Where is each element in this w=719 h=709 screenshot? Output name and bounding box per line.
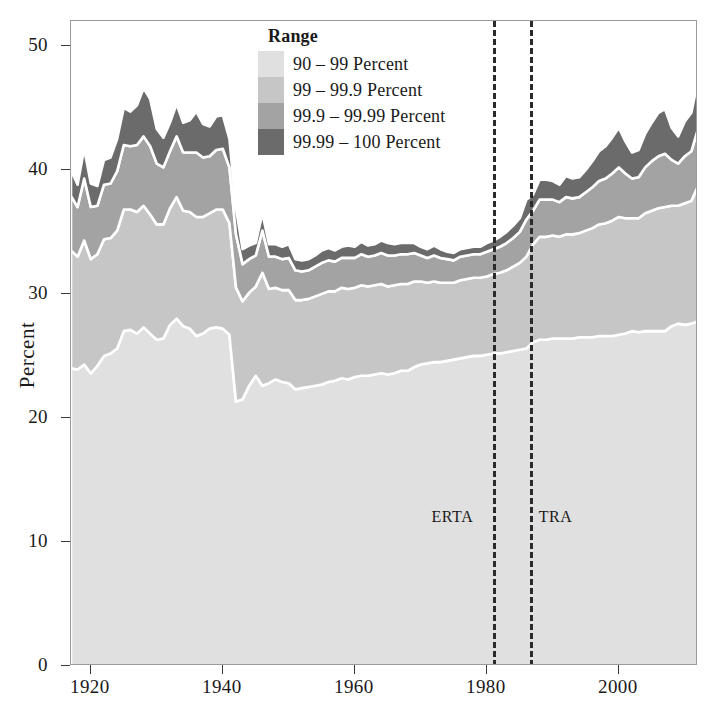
legend-label: 99.9 – 99.99 Percent	[293, 106, 445, 127]
y-tick-label: 30	[8, 282, 48, 304]
legend-title: Range	[268, 26, 468, 47]
x-tick-mark	[354, 665, 355, 674]
y-tick-label: 40	[8, 158, 48, 180]
legend-item[interactable]: 99 – 99.9 Percent	[258, 77, 468, 103]
legend-label: 90 – 99 Percent	[293, 54, 408, 75]
legend-item[interactable]: 99.99 – 100 Percent	[258, 129, 468, 155]
legend-entries: 90 – 99 Percent99 – 99.9 Percent99.9 – 9…	[258, 51, 468, 155]
event-line-erta	[493, 21, 496, 664]
legend-swatch	[258, 51, 284, 77]
legend-swatch	[258, 103, 284, 129]
x-tick-mark	[90, 665, 91, 674]
legend-item[interactable]: 99.9 – 99.99 Percent	[258, 103, 468, 129]
legend-item[interactable]: 90 – 99 Percent	[258, 51, 468, 77]
y-tick-mark	[61, 45, 70, 46]
legend-swatch	[258, 77, 284, 103]
x-tick-label: 1920	[50, 676, 130, 698]
y-tick-label: 0	[8, 654, 48, 676]
y-tick-label: 10	[8, 530, 48, 552]
legend-label: 99.99 – 100 Percent	[293, 132, 441, 153]
legend: Range 90 – 99 Percent99 – 99.9 Percent99…	[258, 26, 468, 155]
x-tick-label: 1960	[314, 676, 394, 698]
event-line-tra	[530, 21, 533, 664]
x-tick-label: 1940	[182, 676, 262, 698]
y-tick-mark	[61, 665, 70, 666]
y-tick-mark	[61, 541, 70, 542]
y-tick-label: 20	[8, 406, 48, 428]
y-tick-mark	[61, 293, 70, 294]
x-tick-mark	[486, 665, 487, 674]
y-axis-title: Percent	[15, 321, 40, 387]
stacked-area-chart: Percent 01020304050 19201940196019802000…	[0, 0, 719, 709]
x-tick-label: 1980	[446, 676, 526, 698]
x-tick-mark	[222, 665, 223, 674]
legend-label: 99 – 99.9 Percent	[293, 80, 422, 101]
legend-swatch	[258, 129, 284, 155]
x-tick-label: 2000	[578, 676, 658, 698]
y-tick-mark	[61, 169, 70, 170]
y-tick-mark	[61, 417, 70, 418]
x-tick-mark	[618, 665, 619, 674]
event-label-erta: ERTA	[431, 508, 473, 526]
event-label-tra: TRA	[539, 508, 573, 526]
y-tick-label: 50	[8, 34, 48, 56]
